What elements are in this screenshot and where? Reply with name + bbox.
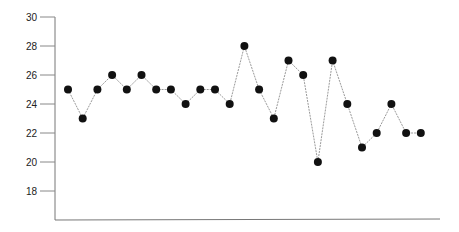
data-point-marker bbox=[373, 129, 381, 137]
y-tick-label: 18 bbox=[26, 186, 38, 197]
data-point-marker bbox=[343, 100, 351, 108]
data-point-marker bbox=[329, 57, 337, 65]
data-point-marker bbox=[417, 129, 425, 137]
data-point-marker bbox=[314, 158, 322, 166]
y-tick-label: 28 bbox=[26, 41, 38, 52]
data-point-marker bbox=[299, 71, 307, 79]
x-axis bbox=[55, 219, 440, 220]
data-point-marker bbox=[211, 86, 219, 94]
data-point-marker bbox=[64, 86, 72, 94]
y-tick-label: 24 bbox=[26, 99, 38, 110]
data-line bbox=[68, 46, 421, 162]
data-point-marker bbox=[93, 86, 101, 94]
data-points bbox=[64, 42, 425, 166]
line-chart: 30282624222018 bbox=[0, 0, 459, 232]
data-point-marker bbox=[152, 86, 160, 94]
data-point-marker bbox=[182, 100, 190, 108]
data-point-marker bbox=[138, 71, 146, 79]
data-point-marker bbox=[285, 57, 293, 65]
data-point-marker bbox=[196, 86, 204, 94]
y-tick-label: 22 bbox=[26, 128, 38, 139]
data-point-marker bbox=[255, 86, 263, 94]
data-point-marker bbox=[226, 100, 234, 108]
y-ticks: 30282624222018 bbox=[26, 12, 55, 197]
y-tick-label: 20 bbox=[26, 157, 38, 168]
series-line bbox=[68, 46, 421, 162]
y-tick-label: 26 bbox=[26, 70, 38, 81]
data-point-marker bbox=[123, 86, 131, 94]
data-point-marker bbox=[387, 100, 395, 108]
data-point-marker bbox=[167, 86, 175, 94]
data-point-marker bbox=[79, 115, 87, 123]
data-point-marker bbox=[402, 129, 410, 137]
data-point-marker bbox=[358, 144, 366, 152]
data-point-marker bbox=[108, 71, 116, 79]
data-point-marker bbox=[270, 115, 278, 123]
y-tick-label: 30 bbox=[26, 12, 38, 23]
data-point-marker bbox=[240, 42, 248, 50]
